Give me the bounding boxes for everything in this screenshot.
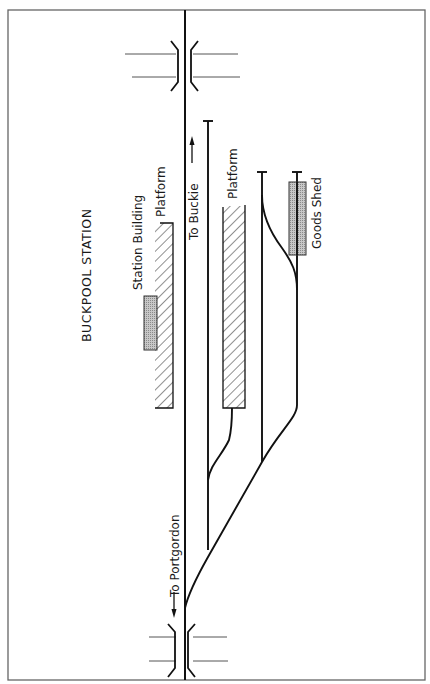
bridge-north bbox=[125, 41, 240, 91]
label-to-buckie: To Buckie bbox=[187, 183, 201, 240]
diagram-frame bbox=[8, 10, 425, 680]
platform-down bbox=[155, 223, 173, 408]
diagram-title: BUCKPOOL STATION bbox=[79, 209, 94, 343]
label-goods-shed: Goods Shed bbox=[310, 177, 324, 249]
bridge-south bbox=[149, 624, 228, 677]
arrow-up-icon bbox=[190, 136, 195, 163]
label-to-portgordon: To Portgordon bbox=[168, 515, 182, 597]
label-platform-down: Platform bbox=[154, 166, 168, 217]
platform-up bbox=[223, 205, 245, 408]
label-station-building: Station Building bbox=[131, 195, 145, 290]
siding-lead bbox=[185, 405, 297, 608]
label-platform-up: Platform bbox=[226, 148, 240, 199]
station-track-diagram bbox=[0, 0, 430, 684]
station-building bbox=[144, 296, 157, 350]
